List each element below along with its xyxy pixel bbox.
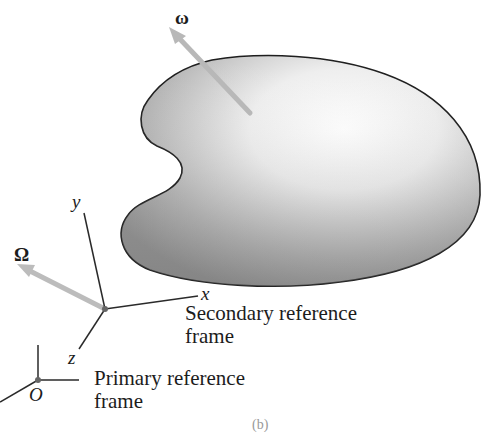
secondary-frame-caption-line2: frame [185, 325, 357, 348]
secondary-frame-caption: Secondary reference frame [185, 302, 357, 348]
primary-frame-caption-line1: Primary reference [94, 367, 245, 390]
secondary-z-axis [79, 309, 105, 349]
subfigure-label: (b) [252, 418, 268, 432]
primary-frame-caption-line2: frame [94, 390, 245, 413]
Omega-label: Ω [14, 245, 29, 264]
origin-O-label: O [29, 385, 43, 404]
secondary-y-axis [84, 213, 105, 309]
secondary-origin-point [102, 306, 108, 312]
z-axis-label: z [68, 348, 75, 367]
secondary-frame-caption-line1: Secondary reference [185, 302, 357, 325]
rigid-body [121, 56, 480, 287]
y-axis-label: y [72, 192, 80, 211]
primary-origin-point [35, 377, 41, 383]
omega-label: ω [175, 8, 189, 27]
primary-frame-caption: Primary reference frame [94, 367, 245, 413]
